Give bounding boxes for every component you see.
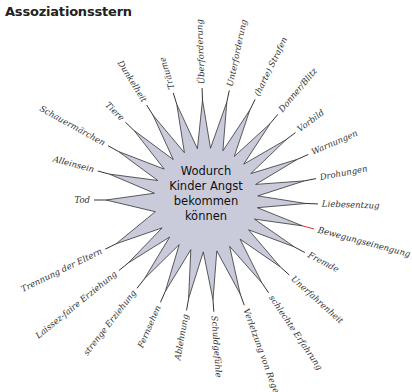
- center-line: bekommen: [158, 194, 254, 209]
- spoke-label: Überforderung: [193, 18, 206, 84]
- spoke-line: [147, 105, 153, 115]
- spoke-line: [105, 244, 116, 249]
- spoke-label: Unterforderung: [225, 18, 249, 88]
- spoke-label: Donner/Blitz: [276, 65, 320, 114]
- spoke-line: [294, 247, 305, 253]
- spoke-line: [125, 122, 134, 130]
- spoke-line: [286, 133, 296, 140]
- spoke-line: [119, 263, 128, 271]
- spoke-label: (harte) Strafen: [252, 35, 289, 97]
- spoke-label: Fremde: [305, 249, 340, 274]
- spoke-line: [108, 146, 118, 152]
- spoke-line: [240, 294, 244, 305]
- spoke-line: [160, 291, 165, 302]
- center-line: können: [158, 209, 254, 224]
- spoke-line: [213, 300, 214, 312]
- spoke-line: [280, 267, 289, 275]
- spoke-label: Dunkelheit: [115, 58, 149, 105]
- center-line: Wodurch: [158, 164, 254, 179]
- spoke-line: [270, 114, 278, 123]
- spoke-label: Tiere: [103, 100, 126, 123]
- spoke-label: Verletzung von Regeln: [241, 307, 284, 392]
- spoke-line: [304, 179, 316, 181]
- spoke-label: Schuldgefühle: [210, 315, 224, 378]
- spoke-label: Drohungen: [318, 163, 368, 182]
- spoke-line: [187, 298, 189, 310]
- spoke-label: Fernsehen: [135, 304, 163, 350]
- spoke-label: Bewegungseinengung: [316, 224, 412, 259]
- spoke-line: [227, 90, 229, 102]
- spoke-label: Schauermärchen: [38, 103, 107, 147]
- spoke-label: Träume: [157, 56, 176, 91]
- spoke-label: Ablehnung: [172, 313, 190, 362]
- center-question: Wodurch Kinder Angst bekommen können: [158, 164, 254, 224]
- spoke-line: [137, 279, 144, 288]
- spoke-line: [303, 226, 315, 229]
- spoke-line: [173, 93, 177, 104]
- center-line: Kinder Angst: [158, 179, 254, 194]
- spoke-line: [262, 283, 269, 293]
- spoke-label: Liebesentzug: [321, 198, 380, 210]
- spoke-label: Warnungen: [310, 128, 359, 157]
- spoke-line: [297, 154, 308, 159]
- spoke-label: Tod: [74, 195, 90, 205]
- spoke-label: Unerfahrenheit: [289, 274, 346, 326]
- spoke-line: [98, 171, 110, 174]
- spoke-label: Vorbild: [295, 107, 326, 134]
- spoke-line: [250, 99, 255, 110]
- spoke-label: Alleinsein: [51, 153, 96, 174]
